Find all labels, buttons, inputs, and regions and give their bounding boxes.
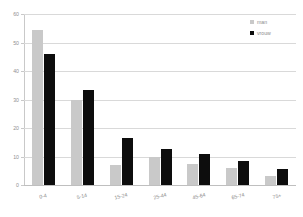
legend-label: man [257, 19, 267, 25]
bar-chart: 0102030405060 0-45-1415-2425-4445-6465-7… [0, 0, 303, 217]
y-tick-label-50: 50 [0, 40, 19, 46]
bar-group [149, 14, 172, 185]
y-tick-label-20: 20 [0, 125, 19, 131]
legend-item-man[interactable]: man [250, 17, 298, 26]
legend-item-vrouw[interactable]: vrouw [250, 28, 298, 37]
x-axis-label-75+: 75+ [262, 190, 291, 204]
bar-vrouw-45-64 [199, 154, 210, 185]
bar-vrouw-0-4 [44, 54, 55, 185]
bar-man-15-24 [110, 165, 121, 185]
plot-area [24, 14, 296, 185]
x-axis-label-25-44: 25-44 [146, 190, 175, 204]
bar-man-0-4 [32, 30, 43, 185]
legend-label: vrouw [257, 30, 271, 36]
legend-swatch-icon-vrouw [250, 31, 254, 35]
bar-group [32, 14, 55, 185]
y-tick-label-60: 60 [0, 11, 19, 17]
bar-man-5-14 [71, 100, 82, 186]
bar-group [226, 14, 249, 185]
gridline-0 [24, 185, 296, 186]
legend: manvrouw [250, 17, 298, 39]
bar-man-65-74 [226, 168, 237, 185]
bar-vrouw-75+ [277, 169, 288, 185]
x-axis-label-5-14: 5-14 [68, 190, 97, 204]
y-tick-label-10: 10 [0, 154, 19, 160]
bar-man-45-64 [187, 164, 198, 185]
bar-man-25-44 [149, 157, 160, 186]
bar-man-75+ [265, 176, 276, 185]
x-axis-label-0-4: 0-4 [29, 190, 58, 204]
x-axis-label-45-64: 45-64 [184, 190, 213, 204]
bar-group [110, 14, 133, 185]
bar-group [265, 14, 288, 185]
bar-vrouw-15-24 [122, 138, 133, 185]
bar-vrouw-25-44 [161, 149, 172, 185]
x-axis-label-65-74: 65-74 [223, 190, 252, 204]
y-tick-label-40: 40 [0, 68, 19, 74]
bar-group [71, 14, 94, 185]
bar-vrouw-5-14 [83, 90, 94, 185]
x-axis-label-15-24: 15-24 [107, 190, 136, 204]
y-axis: 0102030405060 [0, 0, 24, 217]
legend-swatch-icon-man [250, 20, 254, 24]
bar-group [187, 14, 210, 185]
y-tick-label-0: 0 [0, 182, 19, 188]
bar-vrouw-65-74 [238, 161, 249, 185]
y-tick-label-30: 30 [0, 97, 19, 103]
